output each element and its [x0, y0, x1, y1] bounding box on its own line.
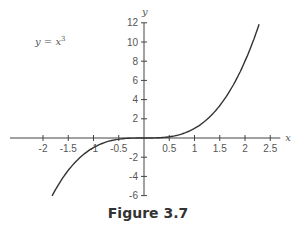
y-tick-label: 10: [127, 37, 139, 48]
x-tick-label: -1.5: [60, 143, 78, 154]
y-tick-label: -2: [129, 152, 138, 163]
y-tick-label: -6: [129, 190, 138, 201]
y-tick-label: 12: [127, 17, 139, 28]
x-tick-label: 2: [242, 143, 248, 154]
cubic-curve: [52, 24, 259, 196]
figure-caption: Figure 3.7: [0, 205, 296, 221]
y-axis-label: y: [141, 6, 148, 17]
cubic-function-chart: -2-1.5-1-0.50.511.522.5-6-4-224681012xy …: [0, 0, 296, 225]
y-tick-label: 4: [132, 94, 138, 105]
function-label: y = x3: [34, 35, 66, 47]
x-tick-label: -2: [39, 143, 48, 154]
y-tick-label: 8: [132, 56, 138, 67]
x-axis-label: x: [285, 132, 291, 143]
x-tick-label: 0.5: [162, 143, 176, 154]
y-tick-label: 6: [132, 75, 138, 86]
x-tick-label: -0.5: [110, 143, 128, 154]
y-tick-label: 2: [132, 113, 138, 124]
x-tick-label: 1: [192, 143, 198, 154]
x-tick-label: -1: [89, 143, 98, 154]
x-tick-label: 1.5: [213, 143, 227, 154]
y-tick-label: -4: [129, 171, 138, 182]
x-tick-label: 2.5: [263, 143, 277, 154]
